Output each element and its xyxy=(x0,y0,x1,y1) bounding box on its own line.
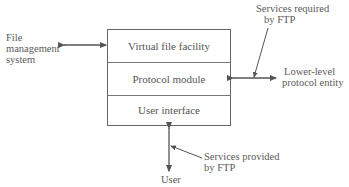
pointer-services-provided xyxy=(171,146,202,158)
connector-arrows xyxy=(0,0,349,187)
pointer-services-required xyxy=(254,28,268,77)
